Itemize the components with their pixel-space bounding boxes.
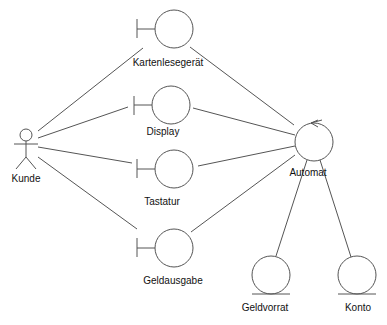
- boundary-label-display: Display: [147, 126, 180, 137]
- stick-figure-icon[interactable]: [14, 129, 38, 169]
- connection-kunde-kartenlesegeraet[interactable]: [38, 48, 143, 131]
- entity-icon-geldvorrat[interactable]: [252, 256, 290, 294]
- boundary-icon-kartenlesegeraet[interactable]: [137, 10, 193, 48]
- connection-kunde-tastatur[interactable]: [38, 147, 132, 163]
- actor-label-kunde: Kunde: [12, 173, 41, 184]
- entity-icon-konto[interactable]: [338, 256, 376, 294]
- connection-kunde-display[interactable]: [38, 107, 128, 138]
- control-label-automat: Automat: [289, 167, 326, 178]
- boundary-label-kartenlesegeraet: Kartenlesegerät: [133, 57, 204, 68]
- connection-kartenlesegeraet-automat[interactable]: [190, 47, 294, 125]
- entity-label-geldvorrat: Geldvorrat: [242, 302, 289, 313]
- boundary-icon-tastatur[interactable]: [137, 150, 193, 188]
- connection-kunde-geldausgabe[interactable]: [38, 157, 137, 229]
- connection-display-automat[interactable]: [193, 108, 295, 135]
- boundary-icon-geldausgabe[interactable]: [137, 229, 193, 267]
- control-icon-automat[interactable]: [295, 120, 333, 161]
- boundary-icon-display[interactable]: [134, 86, 190, 124]
- boundary-label-tastatur: Tastatur: [144, 196, 180, 207]
- entity-label-konto: Konto: [345, 302, 371, 313]
- connection-geldausgabe-automat[interactable]: [191, 155, 295, 232]
- boundary-label-geldausgabe: Geldausgabe: [143, 275, 203, 286]
- connection-tastatur-automat[interactable]: [198, 146, 295, 166]
